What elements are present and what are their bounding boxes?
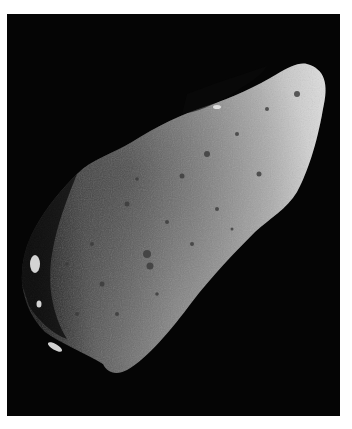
photo-frame xyxy=(7,14,340,416)
asteroid-body xyxy=(22,64,326,373)
asteroid-photo xyxy=(7,14,340,416)
